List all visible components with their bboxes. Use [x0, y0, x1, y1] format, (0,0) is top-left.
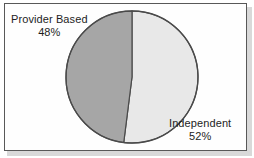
slice-label-independent-text: Independent: [169, 117, 231, 129]
slice-value-independent: 52%: [169, 130, 231, 143]
pie-chart-figure: Provider Based 48% Independent 52%: [0, 0, 254, 158]
slice-label-provider-based-text: Provider Based: [11, 13, 88, 25]
slice-label-provider-based: Provider Based 48%: [11, 13, 88, 39]
plot-area: Provider Based 48% Independent 52%: [0, 0, 254, 158]
slice-label-independent: Independent 52%: [169, 117, 231, 143]
slice-value-provider-based: 48%: [11, 26, 88, 39]
